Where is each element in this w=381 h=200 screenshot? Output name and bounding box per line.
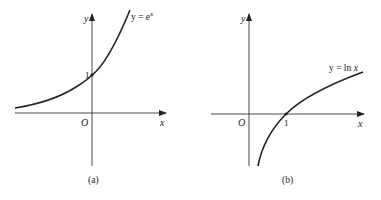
point-1-0 xyxy=(284,112,287,115)
panel-b-logarithm: y x O 1 y = ln x (b) xyxy=(211,13,364,186)
tick-label-x-1: 1 xyxy=(284,118,289,128)
curve-label: y = ln x xyxy=(329,63,359,73)
y-axis-label: y xyxy=(240,13,246,24)
figure-canvas: y x O 1 y = ex (a) y x O 1 y = ln x (b) xyxy=(0,0,381,200)
point-0-1 xyxy=(90,73,93,76)
caption-a: (a) xyxy=(88,175,99,186)
x-axis-label: x xyxy=(357,118,363,129)
tick-label-y-1: 1 xyxy=(85,70,90,80)
x-axis-label: x xyxy=(159,117,165,128)
origin-label: O xyxy=(81,117,88,128)
ln-curve xyxy=(258,72,363,166)
caption-b: (b) xyxy=(282,175,293,186)
origin-label: O xyxy=(238,117,245,128)
panel-a-exponential: y x O 1 y = ex (a) xyxy=(15,10,166,186)
exp-curve xyxy=(15,10,130,108)
curve-label: y = ex xyxy=(131,10,154,22)
y-axis-label: y xyxy=(83,13,89,24)
